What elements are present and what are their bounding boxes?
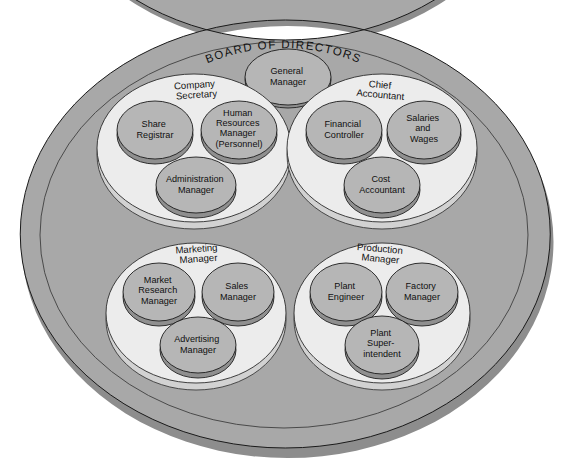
node-factory-manager[interactable]: Factory Manager xyxy=(386,263,458,326)
sales-manager-label: Sales Manager xyxy=(220,281,256,302)
node-salaries-and-wages[interactable]: Salaries and Wages xyxy=(387,101,461,164)
node-advertising-manager[interactable]: Advertising Manager xyxy=(160,317,236,378)
node-share-registrar[interactable]: Share Registrar xyxy=(117,101,193,164)
advertising-manager-label: Advertising Manager xyxy=(174,334,222,355)
group-company-secretary[interactable]: Company Secretary Share Registrar Human … xyxy=(97,74,291,229)
node-market-research-manager[interactable]: Market Research Manager xyxy=(123,263,195,326)
share-registrar-label: Share Registrar xyxy=(137,119,174,140)
market-research-manager-label: Market Research Manager xyxy=(138,275,179,306)
group-marketing-manager[interactable]: Marketing Manager Market Research Manage… xyxy=(106,241,286,390)
org-chart-canvas: BOARD OF DIRECTORS General Manager Compa… xyxy=(0,0,567,459)
node-financial-controller[interactable]: Financial Controller xyxy=(306,101,382,164)
node-plant-superintendent[interactable]: Plant Super- intendent xyxy=(345,316,419,379)
company-secretary-label: Company Secretary xyxy=(174,77,219,101)
group-chief-accountant[interactable]: Chief Accountant Financial Controller Sa… xyxy=(287,74,477,229)
node-administration-manager[interactable]: Administration Manager xyxy=(156,157,236,218)
node-plant-engineer[interactable]: Plant Engineer xyxy=(310,263,382,326)
financial-controller-label: Financial Controller xyxy=(324,119,363,140)
production-manager-label: Production Manager xyxy=(356,241,406,266)
marketing-manager-label: Marketing Manager xyxy=(175,241,221,265)
factory-manager-label: Factory Manager xyxy=(404,281,440,302)
group-production-manager[interactable]: Production Manager Plant Engineer Factor… xyxy=(294,241,470,390)
org-chart-diagram: BOARD OF DIRECTORS General Manager Compa… xyxy=(0,0,567,459)
general-manager-label: General Manager xyxy=(270,66,306,87)
node-cost-accountant[interactable]: Cost Accountant xyxy=(344,157,420,218)
node-human-resources-manager[interactable]: Human Resources Manager (Personnel) xyxy=(201,101,277,164)
node-sales-manager[interactable]: Sales Manager xyxy=(202,263,274,326)
